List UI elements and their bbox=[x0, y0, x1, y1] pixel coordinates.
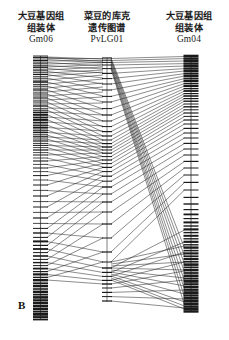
synteny-link bbox=[111, 58, 185, 248]
synteny-link bbox=[111, 66, 185, 69]
synteny-link bbox=[47, 224, 103, 260]
chromosome-bars-layer bbox=[33, 56, 199, 320]
synteny-link bbox=[47, 160, 103, 168]
synteny-link bbox=[111, 74, 185, 84]
synteny-link bbox=[47, 194, 103, 238]
synteny-link bbox=[111, 64, 185, 65]
synteny-link bbox=[47, 141, 103, 144]
synteny-link bbox=[111, 276, 185, 302]
synteny-link bbox=[111, 246, 185, 262]
synteny-link bbox=[111, 101, 185, 144]
synteny-link bbox=[111, 107, 185, 150]
synteny-link bbox=[47, 187, 103, 229]
synteny-link bbox=[47, 94, 103, 115]
synteny-link bbox=[47, 157, 103, 162]
synteny-link bbox=[111, 59, 185, 61]
synteny-link bbox=[47, 87, 103, 92]
synteny-link bbox=[47, 137, 103, 140]
synteny-link bbox=[111, 76, 185, 90]
synteny-link bbox=[111, 61, 185, 63]
synteny-link bbox=[111, 138, 185, 181]
synteny-link bbox=[47, 233, 103, 238]
synteny-link bbox=[47, 202, 103, 203]
synteny-link bbox=[111, 175, 185, 238]
synteny-plot-area bbox=[0, 0, 229, 340]
synteny-link bbox=[111, 60, 185, 257]
synteny-figure-panel: 大豆基因组 组装体 Gm06 菜豆的库克 遗传图谱 PvLG01 大豆基因组 组… bbox=[0, 0, 229, 340]
synteny-link bbox=[47, 212, 103, 253]
synteny-link bbox=[111, 297, 185, 299]
synteny-link bbox=[111, 133, 185, 176]
synteny-link bbox=[47, 176, 103, 207]
synteny-link bbox=[47, 122, 103, 126]
synteny-link bbox=[111, 57, 185, 59]
synteny-link bbox=[111, 110, 185, 153]
synteny-link bbox=[47, 103, 103, 104]
synteny-link bbox=[111, 69, 185, 74]
synteny-link bbox=[47, 238, 103, 266]
chromosome-bar-gm04 bbox=[184, 56, 199, 312]
panel-label-b: B bbox=[18, 299, 25, 311]
synteny-link bbox=[111, 124, 185, 167]
synteny-link bbox=[47, 252, 103, 272]
synteny-link bbox=[47, 108, 103, 109]
synteny-link bbox=[111, 242, 185, 272]
synteny-link bbox=[111, 63, 185, 273]
synteny-link bbox=[47, 133, 103, 137]
synteny-link bbox=[111, 168, 185, 224]
chromosome-bar-gm06 bbox=[33, 56, 48, 320]
synteny-link bbox=[47, 280, 103, 284]
synteny-svg bbox=[0, 0, 229, 340]
synteny-link bbox=[111, 183, 185, 253]
synteny-link bbox=[111, 71, 185, 79]
chromosome-bar-pvlg01 bbox=[102, 58, 112, 302]
synteny-link bbox=[47, 249, 103, 262]
synteny-links-layer bbox=[47, 57, 185, 310]
synteny-link bbox=[47, 263, 103, 273]
